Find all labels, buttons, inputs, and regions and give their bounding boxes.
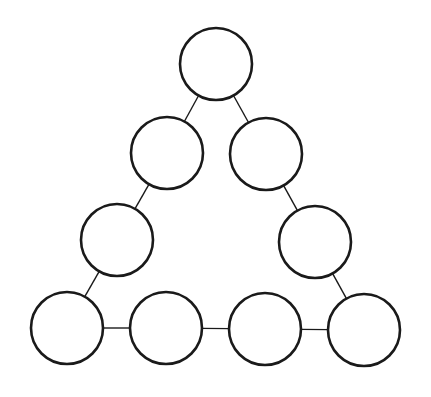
circle-node-n2 — [131, 117, 203, 189]
edge-n1-n2 — [184, 96, 198, 122]
diagram-svg — [0, 0, 431, 397]
triangle-diagram — [0, 0, 431, 397]
circle-node-n4 — [81, 204, 153, 276]
circle-node-n9 — [328, 294, 400, 366]
circle-node-n7 — [130, 292, 202, 364]
circle-node-n1 — [180, 28, 252, 100]
circle-node-n3 — [230, 118, 302, 190]
edge-n1-n3 — [233, 95, 248, 122]
edge-n2-n4 — [135, 184, 149, 209]
edge-n4-n6 — [85, 271, 99, 296]
edge-n5-n9 — [333, 273, 347, 298]
node-group — [31, 28, 400, 366]
circle-node-n5 — [279, 206, 351, 278]
edge-n3-n5 — [284, 185, 298, 210]
circle-node-n8 — [229, 293, 301, 365]
circle-node-n6 — [31, 292, 103, 364]
